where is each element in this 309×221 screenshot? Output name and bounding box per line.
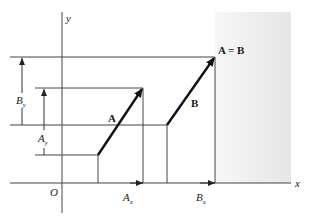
vector-b <box>167 58 214 125</box>
ay-label: Ay <box>38 133 48 147</box>
ay-sub: y <box>45 139 48 147</box>
x-axis-label: x <box>295 178 300 189</box>
ax-label: Ax <box>123 192 133 206</box>
ax-sub: x <box>130 198 133 206</box>
equality-label: A = B <box>218 45 244 56</box>
by-sub: y <box>23 101 26 109</box>
vector-diagram: y x O A B A = B Ax Bx By Ay <box>0 0 309 221</box>
vector-a-label: A <box>108 113 116 124</box>
ax-main: A <box>123 191 130 203</box>
bx-label: Bx <box>196 192 206 206</box>
y-axis-label: y <box>66 13 71 24</box>
bx-sub: x <box>203 198 206 206</box>
origin-label: O <box>50 187 58 198</box>
vector-b-label: B <box>191 98 198 109</box>
shaded-region <box>215 12 291 183</box>
by-label: By <box>16 95 26 109</box>
diagram-graphics <box>0 0 309 221</box>
vector-a <box>98 89 142 155</box>
ay-main: A <box>38 132 45 144</box>
by-main: B <box>16 94 23 106</box>
bx-main: B <box>196 191 203 203</box>
